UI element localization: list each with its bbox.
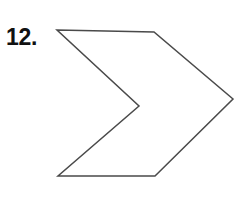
worksheet-figure-item: 12. [0, 0, 239, 215]
geometry-figure-canvas [0, 0, 239, 215]
chevron-arrow-shape [57, 30, 233, 176]
